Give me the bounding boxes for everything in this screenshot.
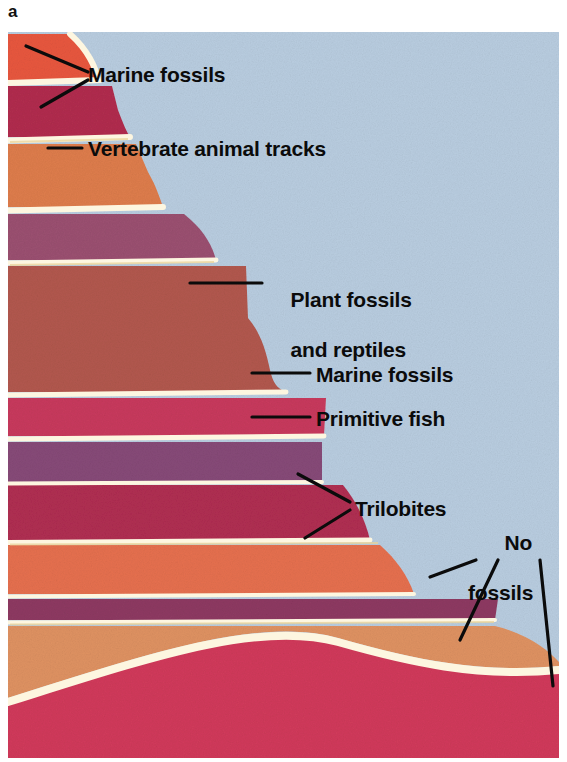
label-marine-fossils-top: Marine fossils <box>88 62 225 87</box>
label-plant-fossils-line2: and reptiles <box>291 338 406 361</box>
stratum-crimson-bed <box>8 86 130 137</box>
label-marine-fossils-middle: Marine fossils <box>316 362 453 387</box>
stratum-mauve-purple-bed <box>8 214 216 260</box>
strata-figure: a <box>0 0 567 762</box>
label-trilobites: Trilobites <box>355 496 446 521</box>
label-primitive-fish: Primitive fish <box>316 406 445 431</box>
stratum-thin-plum-bed <box>8 599 498 620</box>
label-no-fossils-line1: No <box>505 531 533 554</box>
stratum-salmon-orange-bed <box>8 545 414 594</box>
label-plant-fossils-line1: Plant fossils <box>291 288 412 311</box>
label-no-fossils-line2: fossils <box>468 580 533 605</box>
panel-letter: a <box>8 3 17 20</box>
label-no-fossils: No fossils <box>482 505 533 655</box>
stratum-deep-purple-bed <box>8 442 322 482</box>
label-vertebrate-animal-tracks: Vertebrate animal tracks <box>88 136 326 161</box>
stratum-thick-brick-red-bed <box>8 266 286 392</box>
